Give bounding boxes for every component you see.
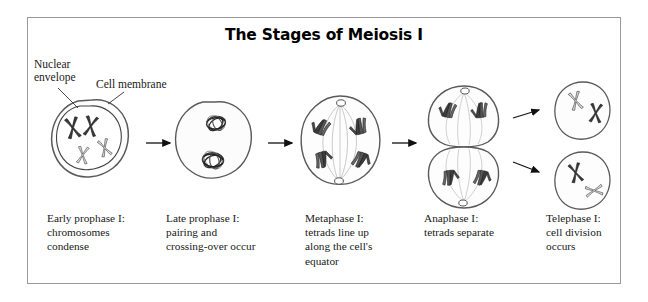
caption-line: Metaphase I: xyxy=(305,211,425,225)
caption-line: Early prophase I: xyxy=(47,211,167,225)
caption-line: Telephase I: xyxy=(546,211,636,225)
caption-line: condense xyxy=(47,239,167,253)
caption-metaphase-1: Metaphase I: tetrads line up along the c… xyxy=(305,211,425,268)
annotation-cell-membrane-line1: Cell membrane xyxy=(96,78,167,91)
caption-line: Late prophase I: xyxy=(166,211,296,225)
annotation-nuclear-envelope: Nuclear envelope xyxy=(34,58,76,84)
caption-early-prophase-1: Early prophase I: chromosomes condense xyxy=(47,211,167,254)
caption-line: along the cell's xyxy=(305,239,425,253)
caption-line: occurs xyxy=(546,239,636,253)
caption-line: tetrads line up xyxy=(305,225,425,239)
annotation-nuclear-envelope-line1: Nuclear xyxy=(34,58,76,71)
meiosis-diagram-page: The Stages of Meiosis I Nuclear envelope… xyxy=(0,0,648,302)
caption-line: Anaphase I: xyxy=(424,211,544,225)
caption-line: pairing and xyxy=(166,225,296,239)
caption-telophase-1: Telephase I: cell division occurs xyxy=(546,211,636,254)
caption-late-prophase-1: Late prophase I: pairing and crossing-ov… xyxy=(166,211,296,254)
caption-line: tetrads separate xyxy=(424,225,544,239)
caption-line: cell division xyxy=(546,225,636,239)
annotation-nuclear-envelope-line2: envelope xyxy=(34,71,76,84)
caption-line: crossing-over occur xyxy=(166,239,296,253)
caption-anaphase-1: Anaphase I: tetrads separate xyxy=(424,211,544,239)
caption-line: chromosomes xyxy=(47,225,167,239)
page-title: The Stages of Meiosis I xyxy=(0,26,648,44)
caption-line: equator xyxy=(305,254,425,268)
annotation-cell-membrane: Cell membrane xyxy=(96,78,167,91)
